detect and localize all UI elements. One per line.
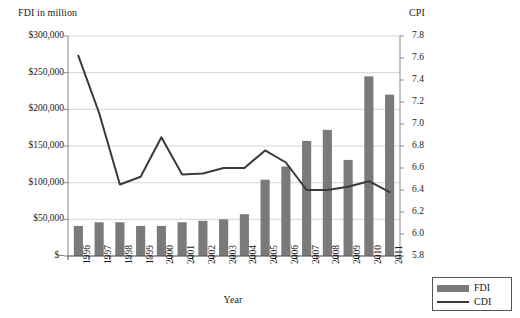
x-tick-label: 1996 xyxy=(82,245,92,264)
x-tick-label: 1999 xyxy=(145,245,155,264)
legend-swatch-line-icon xyxy=(437,301,469,303)
x-tick-label: 2001 xyxy=(186,245,196,264)
legend-swatch-bar-icon xyxy=(437,285,469,292)
axis-ticks xyxy=(64,36,404,260)
right-tick-label: 6.2 xyxy=(412,206,452,216)
x-tick-label: 2010 xyxy=(373,245,383,264)
x-tick-label: 2004 xyxy=(248,245,258,264)
chart-legend: FDI CDI xyxy=(432,277,512,311)
bar-series-fdi xyxy=(74,76,394,256)
left-tick-label: $50,000 xyxy=(0,213,64,223)
right-tick-label: 7.0 xyxy=(412,118,452,128)
right-tick-label: 7.8 xyxy=(412,30,452,40)
left-tick-label: $– xyxy=(0,250,64,260)
right-tick-label: 6.8 xyxy=(412,140,452,150)
right-tick-label: 6.0 xyxy=(412,228,452,238)
plot-area xyxy=(0,0,520,318)
x-tick-label: 1997 xyxy=(103,245,113,264)
right-tick-label: 6.6 xyxy=(412,162,452,172)
x-tick-label: 2008 xyxy=(331,245,341,264)
x-tick-label: 2003 xyxy=(228,245,238,264)
bar xyxy=(344,160,353,256)
legend-item-fdi: FDI xyxy=(437,283,490,293)
legend-label-cdi: CDI xyxy=(474,297,491,307)
x-tick-label: 2011 xyxy=(394,245,404,264)
left-tick-label: $200,000 xyxy=(0,103,64,113)
left-tick-label: $100,000 xyxy=(0,177,64,187)
x-tick-label: 2005 xyxy=(269,245,279,264)
right-tick-label: 7.4 xyxy=(412,74,452,84)
x-tick-label: 2006 xyxy=(290,245,300,264)
x-tick-label: 2007 xyxy=(311,245,321,264)
bar xyxy=(219,219,228,256)
bar xyxy=(323,130,332,256)
right-tick-label: 7.2 xyxy=(412,96,452,106)
bar xyxy=(385,95,394,256)
x-tick-label: 2009 xyxy=(352,245,362,264)
legend-label-fdi: FDI xyxy=(474,283,490,293)
left-tick-label: $300,000 xyxy=(0,30,64,40)
right-tick-label: 7.6 xyxy=(412,52,452,62)
left-tick-label: $250,000 xyxy=(0,67,64,77)
bar xyxy=(302,141,311,256)
bar xyxy=(281,167,290,256)
x-tick-label: 2000 xyxy=(165,245,175,264)
line-series-cdi xyxy=(78,56,389,192)
bar xyxy=(136,226,145,256)
x-tick-label: 1998 xyxy=(124,245,134,264)
x-tick-label: 2002 xyxy=(207,245,217,264)
right-tick-label: 6.4 xyxy=(412,184,452,194)
bar xyxy=(364,76,373,256)
chart-figure: FDI in million CPI Year $–$50,000$100,00… xyxy=(0,0,520,318)
legend-item-cdi: CDI xyxy=(437,297,491,307)
left-tick-label: $150,000 xyxy=(0,140,64,150)
right-tick-label: 5.8 xyxy=(412,250,452,260)
